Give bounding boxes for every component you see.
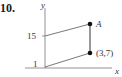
point-3-7-label: (3,7): [96, 48, 113, 58]
x-axis-label: x: [114, 66, 119, 76]
edge-bottom: [45, 53, 90, 67]
y-axis-label: y: [40, 0, 45, 10]
point-a: [88, 22, 93, 27]
edge-top: [45, 24, 90, 36]
point-a-label: A: [95, 19, 102, 29]
tick-label-1: 1: [33, 59, 38, 69]
parallelogram-diagram: y x 15 1 A (3,7): [0, 0, 122, 77]
point-3-7: [88, 51, 93, 56]
tick-label-15: 15: [27, 31, 37, 41]
